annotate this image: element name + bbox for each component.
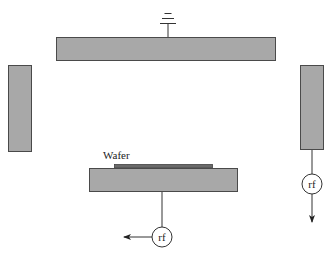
- right-wall-electrode: [301, 66, 324, 150]
- rf-bottom-label: rf: [158, 231, 166, 243]
- rf-right-label: rf: [308, 178, 316, 190]
- wafer-label: Wafer: [103, 149, 130, 161]
- right-rf-connection: rf: [302, 150, 322, 222]
- bottom-electrode: [90, 169, 238, 192]
- wafer: [115, 165, 213, 169]
- left-wall-electrode: [9, 66, 32, 152]
- plasma-reactor-diagram: rf Wafer rf: [0, 0, 334, 255]
- bottom-rf-connection: rf: [124, 192, 172, 247]
- ground-icon: [160, 14, 176, 38]
- top-electrode: [57, 38, 276, 61]
